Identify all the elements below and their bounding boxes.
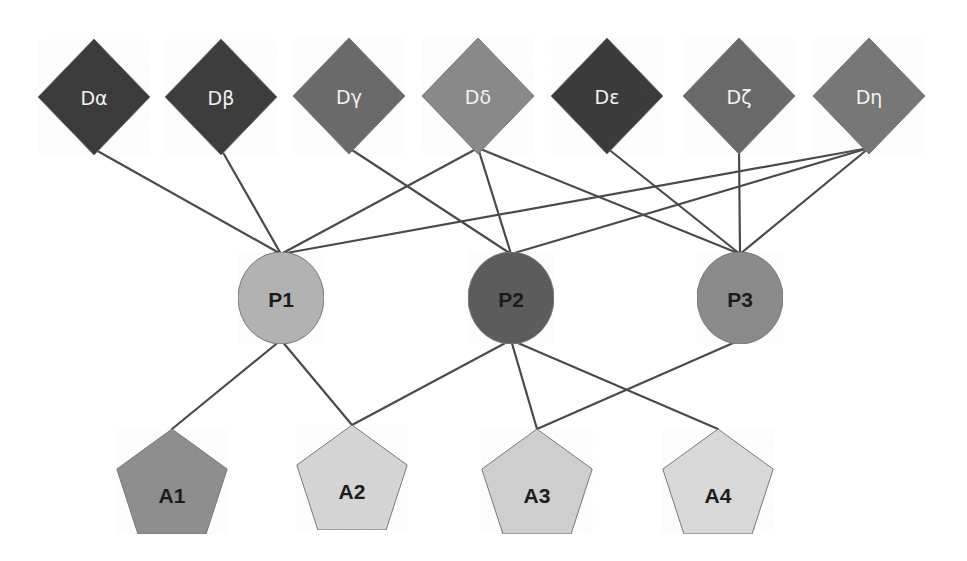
node-label: Dα xyxy=(80,87,107,109)
p-layer-circles: P1P2P3 xyxy=(238,252,783,344)
edge-dd-p2 xyxy=(478,148,511,254)
node-p2: P2 xyxy=(468,252,554,344)
edge-p2-a2 xyxy=(352,340,511,425)
node-label: A2 xyxy=(339,480,366,503)
edge-p3-a3 xyxy=(537,340,740,429)
network-diagram: DαDβDγDδDεDζDη P1P2P3 A1A2A3A4 xyxy=(0,0,967,561)
edge-dh-p2 xyxy=(511,148,869,254)
pentagon-shape xyxy=(482,429,592,534)
node-label: Dε xyxy=(595,86,620,108)
node-a3: A3 xyxy=(482,429,592,534)
node-a2: A2 xyxy=(297,425,407,530)
edge-dd-p1 xyxy=(281,148,478,254)
node-dd: Dδ xyxy=(422,38,534,154)
node-dh: Dη xyxy=(813,38,925,154)
edge-p1-a2 xyxy=(281,340,352,425)
pentagon-shape xyxy=(297,425,407,530)
node-label: P1 xyxy=(268,288,294,311)
node-p3: P3 xyxy=(697,252,783,344)
node-de: Dε xyxy=(551,38,663,154)
node-a4: A4 xyxy=(663,429,773,534)
node-a1: A1 xyxy=(117,429,227,534)
edge-dh-p1 xyxy=(281,148,869,254)
edge-dz-p3 xyxy=(739,148,740,254)
edge-p2-a4 xyxy=(511,340,718,429)
node-label: P2 xyxy=(498,288,524,311)
edge-de-p3 xyxy=(607,148,740,254)
edge-p2-a3 xyxy=(511,340,537,429)
edge-dh-p3 xyxy=(740,148,869,254)
node-label: P3 xyxy=(727,288,753,311)
pentagon-shape xyxy=(117,429,227,534)
node-label: Dη xyxy=(856,86,883,108)
node-label: Dζ xyxy=(727,86,752,108)
node-da: Dα xyxy=(38,39,150,155)
node-dg: Dγ xyxy=(293,38,405,154)
a-layer-pentagons: A1A2A3A4 xyxy=(117,425,773,534)
node-label: Dγ xyxy=(336,86,362,108)
d-layer-diamonds: DαDβDγDδDεDζDη xyxy=(38,38,925,155)
node-label: A1 xyxy=(159,484,186,507)
pentagon-shape xyxy=(663,429,773,534)
edge-p1-a1 xyxy=(172,340,281,429)
node-label: A3 xyxy=(524,484,551,507)
node-label: Dβ xyxy=(208,87,235,109)
edge-dd-p3 xyxy=(478,148,740,254)
node-db: Dβ xyxy=(165,39,277,155)
node-p1: P1 xyxy=(238,252,324,344)
node-label: A4 xyxy=(705,484,732,507)
edge-da-p1 xyxy=(94,149,281,254)
node-dz: Dζ xyxy=(683,38,795,154)
node-label: Dδ xyxy=(465,86,491,108)
